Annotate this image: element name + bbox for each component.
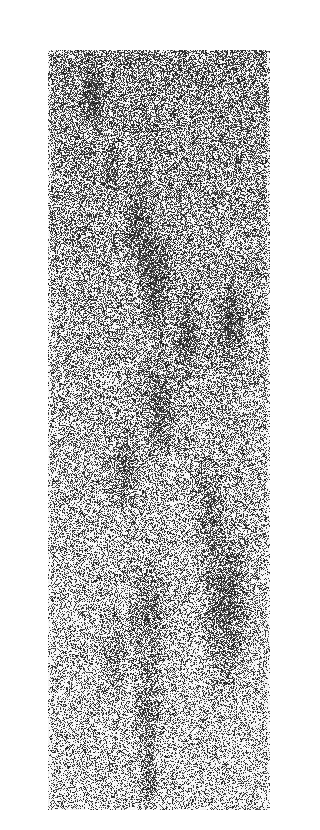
grainy-texture-strip xyxy=(48,50,270,810)
texture-canvas xyxy=(48,50,270,810)
